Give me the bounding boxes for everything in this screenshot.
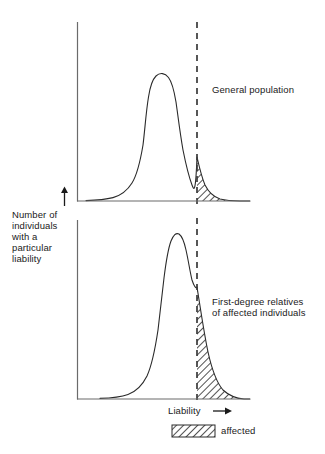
y-axis-label: Number of individuals with a particular … [12,209,57,264]
liability-threshold-figure: General population First-degree relative… [0,0,325,454]
hatched-swatch-icon [172,425,215,437]
legend-label-affected: affected [221,425,255,436]
x-axis-label: Liability [168,405,201,416]
arrow-up-icon [61,187,68,207]
annotation-first-degree-relatives: First-degree relatives of affected indiv… [212,296,306,318]
annotation-general-population: General population [212,84,294,95]
panel-general-population [77,22,250,206]
curve-area-affected-top [197,157,240,201]
arrow-right-icon [213,408,232,415]
